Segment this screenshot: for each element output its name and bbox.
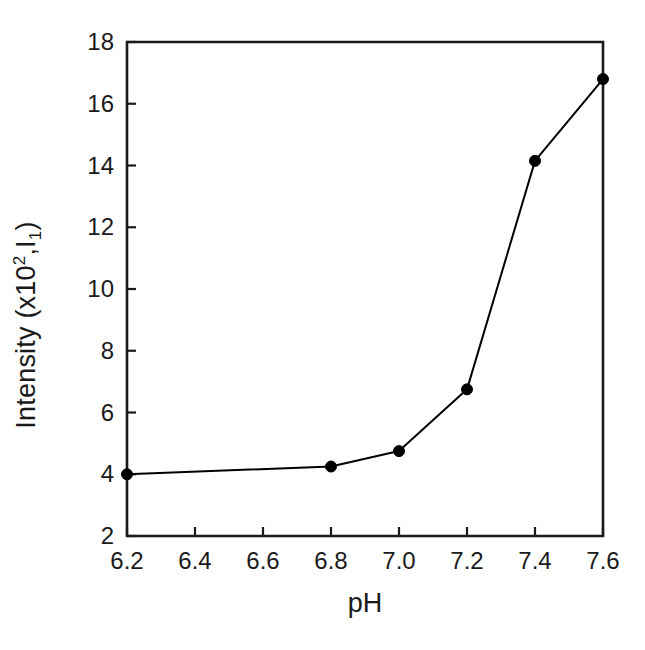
y-axis-tick-label: 18 <box>68 30 114 54</box>
data-markers <box>122 74 609 480</box>
y-axis-tick-label: 14 <box>68 154 114 178</box>
x-axis-tick-labels: 6.26.46.66.87.07.27.47.6 <box>0 549 645 583</box>
y-axis-tick-label: 12 <box>68 215 114 239</box>
data-line <box>127 79 603 474</box>
y-axis-tick-label: 2 <box>68 524 114 548</box>
y-axis-tick-label: 10 <box>68 277 114 301</box>
x-axis-tick-label: 7.6 <box>563 549 643 573</box>
figure-container: Intensity (x102,I1) 24681012141618 6.26.… <box>0 0 645 650</box>
y-axis-tick-label: 4 <box>68 462 114 486</box>
axis-ticks <box>127 42 603 536</box>
x-axis-title: pH <box>127 588 603 619</box>
y-axis-tick-label: 6 <box>68 401 114 425</box>
y-axis-tick-label: 16 <box>68 92 114 116</box>
axes-frame <box>127 42 603 536</box>
y-axis-tick-label: 8 <box>68 339 114 363</box>
